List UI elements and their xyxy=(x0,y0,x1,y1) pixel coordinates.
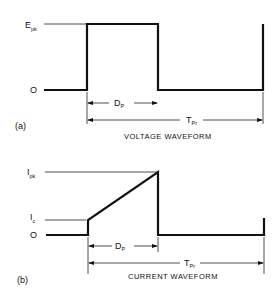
zero-label-b: O xyxy=(30,230,37,240)
waveform-diagram: Epk O DP TPr (a) VOLTAGE WAVEFORM Ipk Ic… xyxy=(0,0,278,291)
current-caption: CURRENT WAVEFORM xyxy=(128,272,218,281)
tpr-label-b: TPr xyxy=(184,258,195,269)
tpr-label-a: TPr xyxy=(186,115,197,126)
voltage-panel: Epk O DP TPr (a) VOLTAGE WAVEFORM xyxy=(15,20,263,141)
dp-label-b: DP xyxy=(115,241,126,252)
ipk-label: Ipk xyxy=(27,167,36,179)
dp-label-a: DP xyxy=(114,98,125,109)
zero-label-a: O xyxy=(30,85,37,95)
voltage-caption: VOLTAGE WAVEFORM xyxy=(124,132,212,141)
current-waveform xyxy=(46,172,264,235)
ic-label: Ic xyxy=(30,212,36,224)
current-panel: Ipk Ic O DP TPr (b) CURRENT WAVEFORM xyxy=(17,167,264,285)
panel-b-tag: (b) xyxy=(17,275,28,285)
voltage-waveform xyxy=(44,24,263,90)
epk-label: Epk xyxy=(25,20,37,32)
panel-a-tag: (a) xyxy=(15,121,26,131)
